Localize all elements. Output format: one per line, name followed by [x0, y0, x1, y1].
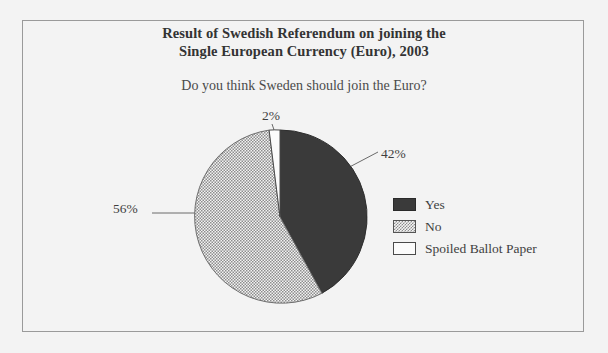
chart-canvas: Result of Swedish Referendum on joining …	[0, 0, 608, 353]
legend-swatch-yes-icon	[393, 198, 416, 211]
chart-legend: Yes No Spoiled Ballot Paper	[393, 194, 578, 260]
legend-item-spoiled-ballot-paper: Spoiled Ballot Paper	[393, 238, 578, 259]
legend-item-yes: Yes	[393, 194, 578, 215]
pie-chart-plot	[0, 0, 608, 353]
legend-label-spoiled-ballot-paper: Spoiled Ballot Paper	[425, 241, 537, 257]
legend-label-yes: Yes	[425, 197, 445, 213]
legend-item-no: No	[393, 216, 578, 237]
legend-swatch-no-icon	[393, 220, 416, 233]
legend-swatch-spoiled-icon	[393, 242, 416, 255]
legend-label-no: No	[425, 219, 442, 235]
pie-value-label-no: 56%	[113, 201, 138, 217]
pie-value-label-spoiled: 2%	[262, 108, 280, 124]
pie-value-label-yes: 42%	[381, 146, 406, 162]
